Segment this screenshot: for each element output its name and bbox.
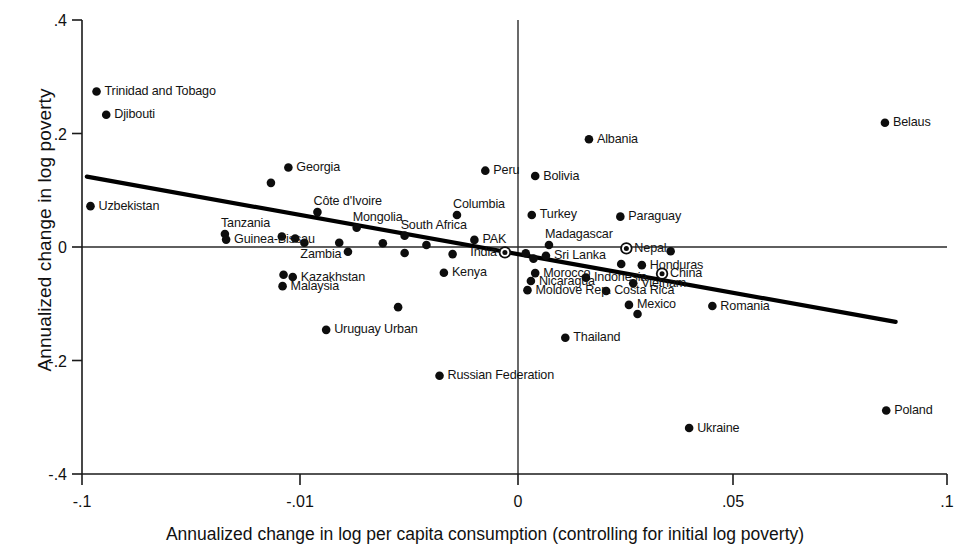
data-point-bolivia	[531, 172, 540, 181]
data-point	[379, 239, 388, 248]
point-label: Madagascar	[545, 228, 613, 241]
data-point	[335, 238, 344, 247]
point-label: Nepal	[634, 242, 666, 255]
point-label: Guinea-Bissau	[234, 233, 315, 246]
point-label: Turkey	[540, 208, 577, 221]
data-point-kenya	[440, 269, 449, 278]
data-point	[666, 247, 675, 256]
data-point	[279, 271, 288, 280]
data-point	[521, 249, 530, 258]
data-point	[529, 254, 538, 263]
point-label: Djibouti	[114, 108, 155, 121]
point-label: Romania	[720, 300, 769, 313]
data-point-india	[499, 246, 511, 258]
x-tick-label: .1	[940, 493, 953, 510]
point-label: Sri Lanka	[554, 249, 606, 262]
point-label: Georgia	[296, 161, 340, 174]
point-label: Malaysia	[291, 280, 340, 293]
point-label: Thailand	[573, 331, 620, 344]
x-tick-label: -.01	[286, 493, 314, 510]
point-label: Russian Federation	[448, 369, 555, 382]
data-point-nicaragua	[527, 277, 536, 286]
data-point	[394, 303, 403, 312]
point-label: Zambia	[300, 248, 341, 261]
data-point	[267, 179, 276, 188]
point-label: Mongolia	[353, 211, 403, 224]
point-label: Mexico	[637, 298, 676, 311]
point-label: Columbia	[453, 198, 505, 211]
point-label: South Africa	[401, 219, 467, 232]
y-tick-label: 0	[58, 239, 67, 256]
data-point-madagascar	[545, 241, 554, 250]
data-point-belaus	[881, 118, 890, 127]
data-point-mongolia	[352, 223, 361, 232]
data-point-trinidad-and-tobago	[92, 87, 101, 96]
point-label: Costa Rica	[614, 284, 674, 297]
point-label: Albania	[597, 133, 638, 146]
data-point-albania	[585, 135, 594, 144]
data-point-moldove-rep	[523, 286, 532, 295]
point-label: Côte d'Ivoire	[313, 195, 381, 208]
point-label: Tanzania	[221, 217, 270, 230]
data-point	[400, 249, 409, 258]
y-tick-label: .4	[54, 12, 67, 29]
data-point-russian-federation	[435, 372, 444, 381]
y-tick-label: -.4	[48, 466, 67, 483]
point-label: Kenya	[452, 266, 487, 279]
data-point-south-africa	[400, 231, 409, 240]
data-point-turkey	[527, 211, 536, 220]
point-label: Uzbekistan	[98, 200, 159, 213]
point-label: Ukraine	[697, 422, 739, 435]
data-point-guinea-bissau	[222, 235, 231, 244]
y-tick-label: .2	[54, 126, 67, 143]
data-point-sri-lanka	[542, 251, 551, 260]
point-label: India	[470, 246, 497, 259]
data-point	[617, 260, 626, 269]
point-label: Trinidad and Tobago	[105, 85, 216, 98]
point-label: Paraguay	[628, 210, 681, 223]
point-label: Indonesia	[594, 271, 647, 284]
data-point-nepal	[620, 242, 632, 254]
data-point-peru	[481, 166, 490, 175]
chart-figure: Annualized change in log poverty Annuali…	[0, 0, 970, 554]
point-label: Moldove Rep.	[535, 284, 611, 297]
data-point	[448, 250, 457, 259]
x-tick-label: 0	[514, 493, 523, 510]
point-label: Bolivia	[543, 170, 579, 183]
point-label: Belaus	[893, 116, 931, 129]
data-point-uzbekistan	[86, 202, 95, 211]
data-point-mexico	[625, 301, 634, 310]
data-point	[422, 241, 431, 250]
data-point	[344, 248, 353, 257]
data-point-poland	[882, 406, 891, 415]
data-point-uruguay-urban	[322, 326, 331, 335]
data-point-georgia	[284, 163, 293, 172]
data-point-djibouti	[102, 110, 111, 119]
point-label: Poland	[894, 404, 932, 417]
point-label: Peru	[493, 164, 519, 177]
point-label: Uruguay Urban	[334, 323, 417, 336]
data-point-honduras	[638, 261, 647, 270]
data-point-pak	[470, 236, 479, 245]
data-point-thailand	[561, 334, 570, 343]
data-point-malaysia	[278, 282, 287, 291]
data-point-romania	[708, 302, 717, 311]
data-point-c-te-d-ivoire	[313, 208, 322, 217]
data-point-ukraine	[685, 424, 694, 433]
data-point-paraguay	[616, 212, 625, 221]
x-tick-label: -.1	[73, 493, 92, 510]
y-tick-label: -.2	[48, 353, 67, 370]
x-tick-label: .05	[722, 493, 744, 510]
